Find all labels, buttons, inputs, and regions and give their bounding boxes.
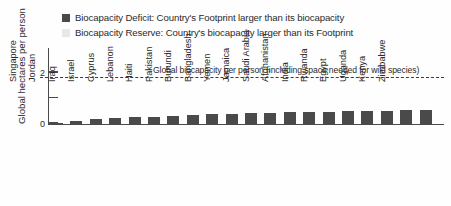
x-label-column: Afghanistan — [255, 78, 267, 198]
y-tick-label: 2 — [40, 68, 45, 77]
legend-label-reserve: Biocapacity Reserve: Country's biocapaci… — [75, 27, 353, 38]
x-axis-label: Zimbabwe — [378, 40, 387, 82]
legend-swatch-reserve-icon — [62, 29, 70, 37]
x-label-column: Burundi — [158, 78, 170, 198]
x-axis-label: Bangladesh — [184, 33, 193, 82]
x-label-column: Lebanon — [100, 78, 112, 198]
x-label-column: Rwanda — [294, 78, 306, 198]
x-label-column: Pakistan — [139, 78, 151, 198]
x-axis-label: Egypt — [319, 59, 328, 83]
x-label-column: Egypt — [313, 78, 325, 198]
chart-screenshot: Biocapacity Deficit: Country's Footprint… — [0, 0, 451, 206]
legend-item-reserve: Biocapacity Reserve: Country's biocapaci… — [62, 26, 447, 39]
x-axis-label: India — [281, 62, 290, 82]
x-label-column: Cyprus — [81, 78, 93, 198]
x-label-column: Bangladesh — [178, 78, 190, 198]
x-axis-label: Pakistan — [145, 47, 154, 82]
x-label-column: Yemen — [197, 78, 209, 198]
x-label-column: Kenya — [352, 78, 364, 198]
x-axis-label: Saudi Arabia — [242, 30, 251, 82]
x-axis-label: Lebanon — [106, 46, 115, 82]
legend-item-deficit: Biocapacity Deficit: Country's Footprint… — [62, 11, 447, 24]
x-axis-label: Afghanistan — [261, 33, 270, 82]
x-axis-label: Iraq — [48, 66, 57, 82]
bar[interactable] — [420, 110, 432, 123]
x-label-column: Uganda — [333, 78, 345, 198]
legend-label-deficit: Biocapacity Deficit: Country's Footprint… — [75, 12, 344, 23]
x-label-column: Zimbabwe — [372, 78, 384, 198]
x-axis-label: Cyprus — [87, 53, 96, 82]
legend-swatch-deficit-icon — [62, 14, 70, 22]
x-axis-label: Rwanda — [300, 48, 309, 82]
x-label-column: Israel — [61, 78, 73, 198]
x-axis-label: Singapore — [9, 40, 18, 82]
x-axis-labels: SingaporeJordanIraqIsraelCyprusLebanonHa… — [3, 78, 393, 203]
x-label-column: Saudi Arabia — [236, 78, 248, 198]
x-axis-label: Uganda — [339, 50, 348, 82]
x-label-column: Haiti — [119, 78, 131, 198]
x-label-column: Jamaica — [216, 78, 228, 198]
x-axis-label: Jamaica — [222, 48, 231, 82]
chart-legend: Biocapacity Deficit: Country's Footprint… — [62, 11, 447, 41]
x-axis-label: Kenya — [358, 56, 367, 82]
x-label-column: Jordan — [22, 78, 34, 198]
x-label-column: Iraq — [42, 78, 54, 198]
x-label-column: India — [275, 78, 287, 198]
bar[interactable] — [400, 110, 412, 123]
x-axis-label: Yemen — [203, 54, 212, 82]
x-axis-label: Burundi — [164, 50, 173, 82]
x-axis-label: Jordan — [28, 54, 37, 82]
x-axis-label: Israel — [67, 60, 76, 82]
x-axis-label: Haiti — [125, 64, 134, 82]
x-label-column: Singapore — [3, 78, 15, 198]
